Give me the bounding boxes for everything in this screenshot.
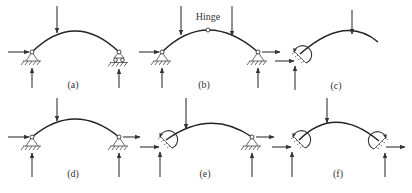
panel-b: Hinge (b)	[139, 6, 280, 91]
panel-f: (f)	[272, 98, 405, 180]
fixed-support-icon	[291, 131, 311, 148]
arch-beam	[166, 123, 252, 140]
panel-c: (c)	[275, 10, 378, 92]
arch-beam	[162, 30, 258, 52]
roller-support-icon	[108, 50, 128, 67]
arch-beam	[32, 119, 119, 137]
panel-label: (b)	[198, 79, 210, 91]
panel-label: (e)	[199, 168, 210, 180]
panel-label: (a)	[67, 79, 78, 91]
arch-beam	[300, 30, 378, 54]
panel-e: (e)	[140, 98, 274, 180]
panel-label: (c)	[330, 80, 341, 92]
panel-label: (d)	[67, 168, 79, 180]
arch-support-diagram: (a) Hinge (b) (c) (d)	[0, 0, 412, 193]
hinge-label: Hinge	[196, 11, 221, 22]
panel-d: (d)	[8, 98, 140, 180]
hinge-icon	[206, 28, 210, 32]
panel-label: (f)	[333, 168, 343, 180]
fixed-support-icon	[292, 46, 312, 63]
panel-a: (a)	[8, 6, 128, 91]
arch-beam	[32, 31, 119, 52]
